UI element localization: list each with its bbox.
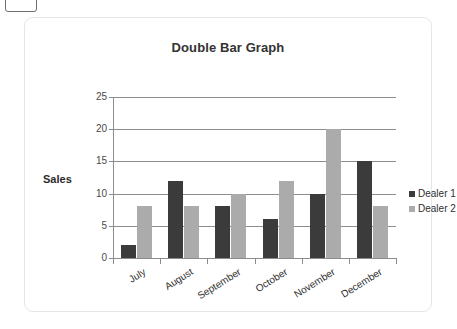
bar[interactable] (263, 219, 278, 258)
bar[interactable] (137, 206, 152, 258)
bar-group (113, 97, 160, 258)
x-axis-tick-mark (113, 259, 114, 264)
bar-group (207, 97, 254, 258)
y-axis-tick-label: 10 (83, 188, 107, 199)
bar[interactable] (326, 129, 341, 258)
chart-title: Double Bar Graph (25, 40, 431, 55)
legend-label: Dealer 1 (418, 188, 456, 199)
x-axis-tick-mark (349, 259, 350, 264)
x-axis-tick-label: October (254, 266, 290, 294)
bar[interactable] (121, 245, 136, 258)
y-axis-tick-label: 5 (83, 220, 107, 231)
x-axis-tick-mark (302, 259, 303, 264)
chart-card: Double Bar Graph Sales 0510152025 JulyAu… (24, 17, 432, 312)
bar-series-container (113, 97, 396, 258)
y-axis-tick-label: 25 (83, 91, 107, 102)
x-axis-tick-label: November (292, 266, 337, 300)
y-axis-tick-mark (109, 161, 114, 162)
bar[interactable] (215, 206, 230, 258)
y-axis-tick-labels: 0510152025 (81, 97, 107, 258)
cropped-ui-fragment (5, 0, 37, 12)
bar[interactable] (168, 181, 183, 258)
y-axis-tick-label: 0 (83, 252, 107, 263)
bar-group (255, 97, 302, 258)
bar[interactable] (373, 206, 388, 258)
y-axis-tick-mark (109, 97, 114, 98)
bar[interactable] (310, 194, 325, 258)
x-axis-tick-mark (255, 259, 256, 264)
bar-group (160, 97, 207, 258)
y-axis-tick-label: 20 (83, 123, 107, 134)
x-axis-tick-label: July (127, 266, 148, 285)
x-axis-tick-mark (396, 259, 397, 264)
x-axis-tick-mark (160, 259, 161, 264)
legend-item[interactable]: Dealer 2 (409, 201, 457, 216)
x-axis-tick-label: August (163, 266, 195, 292)
legend-swatch-icon (409, 191, 415, 197)
y-axis-tick-mark (109, 226, 114, 227)
y-axis-tick-label: 15 (83, 155, 107, 166)
bar-group (302, 97, 349, 258)
bar[interactable] (231, 194, 246, 258)
bar-group (349, 97, 396, 258)
x-axis-tick-label: December (339, 266, 384, 300)
x-axis-tick-mark (207, 259, 208, 264)
legend-item[interactable]: Dealer 1 (409, 186, 457, 201)
legend-label: Dealer 2 (418, 203, 456, 214)
bar[interactable] (184, 206, 199, 258)
bar[interactable] (279, 181, 294, 258)
bar[interactable] (357, 161, 372, 258)
y-axis-tick-mark (109, 129, 114, 130)
chart-legend: Dealer 1Dealer 2 (409, 186, 457, 216)
y-axis-title: Sales (43, 173, 72, 185)
legend-swatch-icon (409, 206, 415, 212)
x-axis-tick-labels: JulyAugustSeptemberOctoberNovemberDecemb… (113, 264, 396, 310)
x-axis-tick-label: September (195, 266, 242, 301)
y-axis-tick-mark (109, 194, 114, 195)
